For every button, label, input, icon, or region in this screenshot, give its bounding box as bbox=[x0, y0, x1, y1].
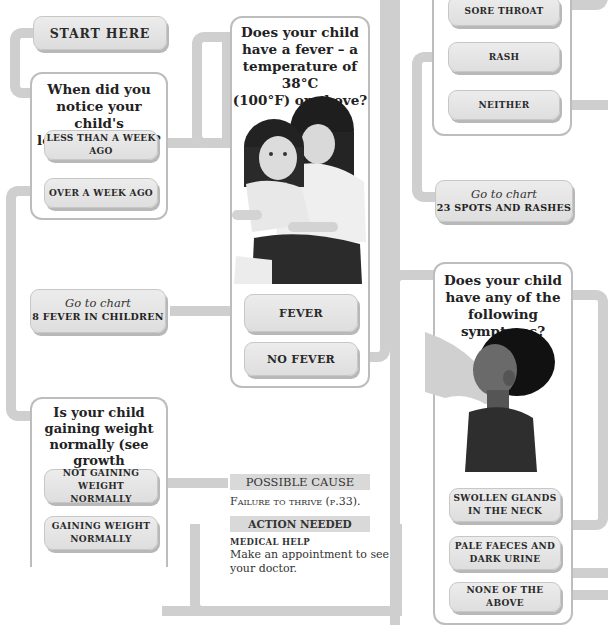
connector-not-gaining-to-cause bbox=[162, 478, 228, 488]
symptoms-question-panel: Does your child have any of the followin… bbox=[433, 262, 573, 625]
option-swollen-glands[interactable]: Swollen glands in the neck bbox=[449, 488, 561, 522]
option-fever[interactable]: Fever bbox=[244, 294, 358, 332]
title-line: Is your child bbox=[32, 405, 166, 421]
connector-neither-right bbox=[572, 100, 608, 110]
option-gaining-weight[interactable]: Gaining weight normally bbox=[44, 516, 158, 550]
title-line: When did you bbox=[32, 81, 166, 98]
mother-child-photo bbox=[232, 92, 368, 284]
option-label: Fever bbox=[279, 307, 323, 320]
title-line: gaining weight bbox=[32, 421, 166, 437]
appetite-question-panel: When did you notice your child's loss of… bbox=[30, 72, 168, 220]
start-here-box: Start here bbox=[33, 16, 167, 50]
option-label: normally bbox=[70, 533, 131, 546]
fever-question-panel: Does your child have a fever – a tempera… bbox=[230, 16, 370, 388]
option-no-fever[interactable]: No fever bbox=[244, 342, 358, 376]
title-line: notice your child's bbox=[32, 98, 166, 132]
option-label: in the neck bbox=[468, 505, 542, 518]
option-label: dark urine bbox=[470, 553, 541, 566]
connector-fever-to-chart8 bbox=[170, 306, 234, 316]
connector-sore-throat-right bbox=[572, 0, 608, 10]
option-sore-throat[interactable]: Sore throat bbox=[448, 0, 560, 26]
action-text-line: your doctor. bbox=[230, 562, 389, 576]
title-line: Does your child bbox=[232, 24, 368, 41]
title-line: have a fever – a bbox=[232, 41, 368, 58]
action-text: Make an appointment to see your doctor. bbox=[230, 548, 389, 576]
connector-none-above-right bbox=[572, 590, 608, 600]
option-label: Pale faeces and bbox=[455, 540, 555, 553]
option-not-gaining-weight[interactable]: Not gaining weight normally bbox=[44, 469, 158, 503]
possible-cause-header: Possible cause bbox=[230, 474, 370, 490]
option-label: Gaining weight bbox=[52, 520, 151, 533]
option-label: normally bbox=[70, 493, 131, 506]
option-pale-faeces[interactable]: Pale faeces and dark urine bbox=[449, 536, 561, 570]
title-line: Does your child bbox=[435, 272, 571, 289]
option-label: Not gaining weight bbox=[45, 467, 157, 493]
option-none-of-the-above[interactable]: None of the above bbox=[449, 582, 561, 612]
throat-question-panel: Sore throat Rash Neither bbox=[432, 0, 572, 136]
connector-segment bbox=[192, 32, 232, 148]
goto-target: 23 Spots and rashes bbox=[436, 202, 572, 213]
title-line: have any of the bbox=[435, 289, 571, 306]
action-needed-header: Action needed bbox=[230, 516, 370, 532]
weight-question-panel: Is your child gaining weight normally (s… bbox=[30, 397, 168, 567]
child-neck-photo bbox=[425, 322, 565, 472]
option-less-than-week[interactable]: Less than a week ago bbox=[44, 130, 158, 160]
goto-chart-fever-in-children[interactable]: Go to chart 8 Fever in children bbox=[30, 289, 166, 333]
connector-pale-faeces-right bbox=[572, 568, 608, 578]
option-neither[interactable]: Neither bbox=[448, 90, 560, 120]
title-line: temperature of 38°C bbox=[232, 58, 368, 92]
option-label: Swollen glands bbox=[453, 492, 556, 505]
title-line: normally (see growth bbox=[32, 437, 166, 469]
action-text-line: Make an appointment to see bbox=[230, 548, 389, 562]
goto-prefix: Go to chart bbox=[31, 296, 165, 310]
goto-chart-spots-and-rashes[interactable]: Go to chart 23 Spots and rashes bbox=[435, 180, 573, 222]
option-label: No fever bbox=[267, 353, 335, 366]
goto-prefix: Go to chart bbox=[436, 187, 572, 201]
connector-trunk-to-symptoms bbox=[390, 270, 436, 310]
possible-cause-text: Failure to thrive (p.33). bbox=[230, 495, 361, 508]
option-over-week[interactable]: Over a week ago bbox=[44, 178, 158, 208]
goto-target: 8 Fever in children bbox=[31, 311, 165, 322]
option-rash[interactable]: Rash bbox=[448, 42, 560, 72]
action-level: medical help bbox=[230, 537, 310, 547]
